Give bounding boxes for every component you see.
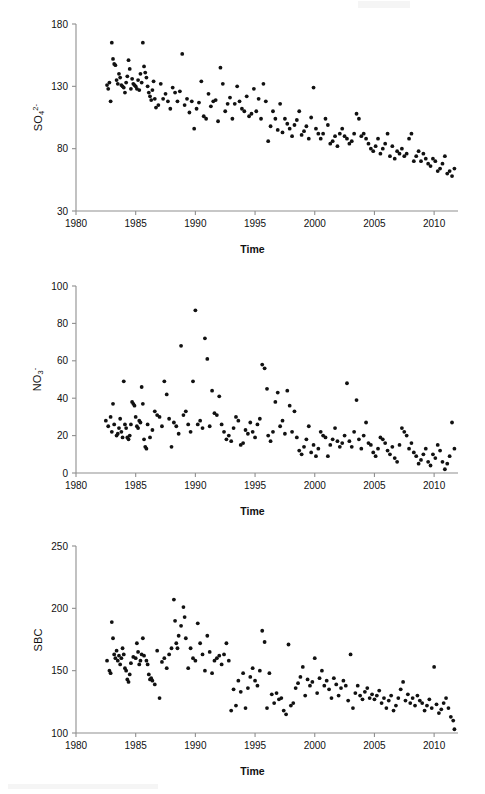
data-point <box>146 422 150 426</box>
data-point <box>134 656 138 660</box>
data-point <box>376 447 380 451</box>
data-point <box>347 439 351 443</box>
data-point <box>453 167 457 171</box>
data-point <box>199 79 203 83</box>
data-point <box>182 605 186 609</box>
data-point <box>129 87 133 91</box>
data-point <box>383 441 387 445</box>
data-point <box>170 646 174 650</box>
data-point <box>145 659 149 663</box>
data-point <box>112 653 116 657</box>
data-point <box>171 86 175 90</box>
data-point <box>345 381 349 385</box>
data-point <box>186 666 190 670</box>
data-point <box>433 159 437 163</box>
data-point <box>448 169 452 173</box>
data-point <box>252 87 256 91</box>
data-point <box>308 684 312 688</box>
scan-artifact-bottom <box>8 784 158 789</box>
data-point <box>276 391 280 395</box>
x-tick-label: 2005 <box>363 740 386 751</box>
data-point <box>304 437 308 441</box>
data-point <box>362 434 366 438</box>
x-axis-label: Time <box>10 765 485 777</box>
data-point <box>236 419 240 423</box>
data-point <box>183 103 187 107</box>
data-point <box>242 109 246 113</box>
data-point <box>115 649 119 653</box>
data-point <box>340 127 344 131</box>
data-point <box>180 52 184 56</box>
data-point <box>141 402 145 406</box>
data-point <box>111 57 115 61</box>
data-point <box>314 454 318 458</box>
data-point <box>451 719 455 723</box>
data-point <box>338 445 342 449</box>
y-tick-label: 0 <box>62 468 68 479</box>
data-point <box>110 430 114 434</box>
data-point <box>220 663 224 667</box>
data-point <box>404 699 408 703</box>
y-tick-label: 100 <box>51 728 68 739</box>
data-point <box>170 445 174 449</box>
data-point <box>300 452 304 456</box>
data-point <box>374 144 378 148</box>
data-point <box>196 621 200 625</box>
data-point <box>196 422 200 426</box>
data-point <box>304 124 308 128</box>
data-point <box>235 84 239 88</box>
data-point <box>262 82 266 86</box>
data-point <box>314 127 318 131</box>
data-point <box>374 454 378 458</box>
data-point <box>419 458 423 462</box>
data-point <box>392 709 396 713</box>
data-point <box>276 128 280 132</box>
data-point <box>297 109 301 113</box>
data-point <box>164 92 168 96</box>
plot-area-1: 1980198519901995200020052010020406080100 <box>0 268 485 526</box>
data-point <box>400 426 404 430</box>
data-point <box>165 393 169 397</box>
data-point <box>217 394 221 398</box>
data-point <box>333 134 337 138</box>
data-point <box>198 641 202 645</box>
data-point <box>439 707 443 711</box>
data-point <box>332 676 336 680</box>
data-point <box>279 696 283 700</box>
x-tick-label: 1990 <box>184 740 207 751</box>
data-point <box>117 426 121 430</box>
data-point <box>410 441 414 445</box>
data-point <box>430 706 434 710</box>
data-point <box>344 684 348 688</box>
data-point <box>450 174 454 178</box>
data-point <box>319 430 323 434</box>
data-point <box>256 422 260 426</box>
data-point <box>288 404 292 408</box>
data-point <box>158 696 162 700</box>
data-point <box>119 656 123 660</box>
data-point <box>233 102 237 106</box>
x-tick-label: 2005 <box>363 480 386 491</box>
data-point <box>302 445 306 449</box>
data-point <box>265 706 269 710</box>
data-point <box>115 78 119 82</box>
data-point <box>153 682 157 686</box>
data-point <box>189 430 193 434</box>
data-point <box>359 447 363 451</box>
data-point <box>216 119 220 123</box>
data-point <box>349 653 353 657</box>
data-point <box>220 422 224 426</box>
data-point <box>316 132 320 136</box>
data-point <box>351 706 355 710</box>
data-point <box>307 137 311 141</box>
y-tick-label: 200 <box>51 603 68 614</box>
data-point <box>444 696 448 700</box>
data-point <box>273 400 277 404</box>
data-point <box>127 680 131 684</box>
data-point <box>336 144 340 148</box>
data-point <box>201 653 205 657</box>
data-point <box>390 144 394 148</box>
data-point <box>395 460 399 464</box>
data-point <box>263 640 267 644</box>
data-point <box>174 641 178 645</box>
